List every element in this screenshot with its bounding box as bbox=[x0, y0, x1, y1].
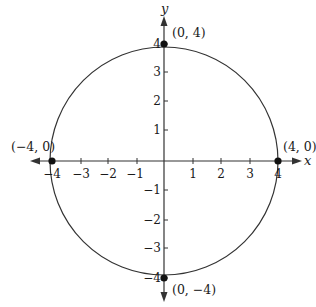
y-tick-label: −1 bbox=[143, 183, 161, 197]
x-tick-label: 4 bbox=[274, 167, 282, 181]
y-tick-label: 2 bbox=[153, 94, 161, 108]
x-tick-label: −2 bbox=[99, 167, 117, 181]
y-axis-label: y bbox=[160, 1, 169, 16]
y-tick-label: −4 bbox=[143, 271, 161, 285]
x-axis: x bbox=[30, 153, 312, 168]
x-tick-label: −4 bbox=[43, 167, 61, 181]
point-label-right: (4, 0) bbox=[283, 139, 316, 154]
y-axis-up-arrow-icon bbox=[161, 16, 168, 26]
x-axis-left-arrow-icon bbox=[30, 158, 40, 165]
point-label-top: (0, 4) bbox=[172, 25, 206, 40]
point-bottom bbox=[160, 274, 167, 281]
x-tick-labels: −4 −3 −2 −1 1 2 3 4 bbox=[43, 167, 282, 181]
y-tick-label: −3 bbox=[143, 241, 161, 255]
x-tick-label: 2 bbox=[217, 167, 225, 181]
coordinate-plane: x y −4 −3 −2 −1 1 2 3 4 bbox=[0, 0, 316, 307]
x-tick-label: 3 bbox=[246, 167, 254, 181]
point-left bbox=[48, 157, 55, 164]
x-tick-label: 1 bbox=[189, 167, 197, 181]
y-tick-label: 3 bbox=[153, 65, 161, 79]
x-axis-right-arrow-icon bbox=[292, 158, 302, 165]
point-top bbox=[160, 40, 167, 47]
x-tick-label: −1 bbox=[126, 167, 144, 181]
y-tick-label: 4 bbox=[153, 37, 161, 51]
point-label-left: (−4, 0) bbox=[11, 139, 55, 154]
x-axis-label: x bbox=[304, 153, 312, 168]
point-right bbox=[274, 157, 281, 164]
x-tick-label: −3 bbox=[72, 167, 90, 181]
y-tick-label: −2 bbox=[143, 213, 161, 227]
point-label-bottom: (0, −4) bbox=[172, 282, 216, 297]
y-tick-label: 1 bbox=[153, 123, 161, 137]
y-axis-down-arrow-icon bbox=[161, 292, 168, 302]
